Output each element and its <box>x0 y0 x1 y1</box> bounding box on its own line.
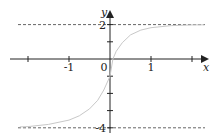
x-tick-label: -1 <box>64 61 75 74</box>
x-tick-label: 1 <box>148 61 155 74</box>
axes <box>10 12 207 133</box>
y-axis-label: y <box>100 6 108 19</box>
x-axis-label: x <box>203 61 210 74</box>
y-tick-label: -4 <box>95 122 106 135</box>
origin-label: 0 <box>101 61 108 74</box>
function-plot: -112-40xy <box>0 0 218 140</box>
y-tick-label: 2 <box>99 19 106 32</box>
